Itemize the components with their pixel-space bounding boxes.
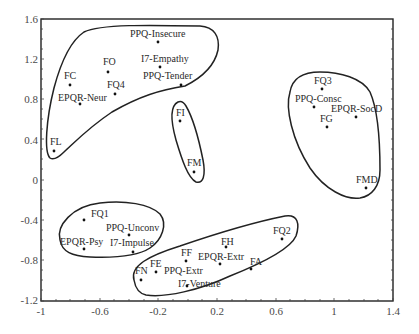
x-tick-label: 1.4: [386, 305, 400, 317]
data-point: [83, 219, 86, 222]
y-tick-label: -1.2: [21, 294, 38, 306]
data-point: [157, 41, 160, 44]
point-label: FE: [150, 258, 162, 269]
y-tick-label: 0.8: [24, 93, 38, 105]
point-label: FL: [50, 136, 62, 147]
data-point: [179, 120, 182, 123]
point-label: I7-Impulse: [110, 237, 154, 248]
point-label: FI: [176, 107, 185, 118]
point-label: FF: [181, 247, 193, 258]
point-label: FQ2: [273, 225, 291, 236]
data-point: [159, 66, 162, 69]
data-point: [250, 268, 253, 271]
y-tick-label: 0.4: [24, 134, 38, 146]
point-label: FC: [64, 70, 77, 81]
point-label: FQ3: [314, 75, 332, 86]
data-points: PPQ-Insecure I7-Empathy PPQ-Tender FO FQ…: [50, 28, 382, 289]
data-point: [53, 150, 56, 153]
data-point: [83, 248, 86, 251]
x-tick-label: 0.6: [269, 305, 283, 317]
data-point: [321, 88, 324, 91]
point-label: FQ4: [107, 79, 125, 90]
data-point: [355, 116, 358, 119]
x-tick-label: -0.6: [91, 305, 109, 317]
x-tick-label: -1: [36, 305, 45, 317]
point-label: FM: [187, 157, 202, 168]
data-point: [180, 84, 183, 87]
y-tick-label: 1.6: [24, 13, 38, 25]
x-tick-label: -0.2: [149, 305, 166, 317]
point-label: I7-Venture: [178, 278, 221, 289]
data-point: [155, 271, 158, 274]
data-point: [128, 234, 131, 237]
point-label: FMD: [356, 174, 378, 185]
y-tick-label: 1.2: [24, 53, 38, 65]
point-label: PPQ-Tender: [143, 70, 193, 81]
point-label: PPQ-Unconv: [106, 222, 159, 233]
y-axis-labels: 1.6 1.2 0.8 0.4 0 -0.4 -0.8 -1.2: [21, 13, 39, 306]
data-point: [140, 279, 143, 282]
data-point: [219, 263, 222, 266]
data-point: [326, 126, 329, 129]
point-label: PPQ-Extr: [164, 265, 204, 276]
y-tick-label: 0: [33, 174, 39, 186]
point-label: FA: [250, 256, 263, 267]
point-label: EPQR-Neur: [58, 92, 108, 103]
data-point: [313, 106, 316, 109]
point-label: EPQR-Extr: [198, 251, 245, 262]
data-point: [114, 93, 117, 96]
x-tick-label: 0.2: [210, 305, 224, 317]
data-point: [79, 103, 82, 106]
point-label: PPQ-Insecure: [130, 28, 186, 39]
scatter-plot: 1.6 1.2 0.8 0.4 0 -0.4 -0.8 -1.2 -1 -0.6…: [0, 0, 419, 334]
point-label: FG: [320, 113, 333, 124]
data-point: [365, 187, 368, 190]
x-tick-label: 1: [331, 305, 337, 317]
point-label: I7-Empathy: [141, 53, 189, 64]
y-tick-label: -0.8: [21, 254, 39, 266]
y-tick-label: -0.4: [21, 214, 39, 226]
data-point: [281, 238, 284, 241]
point-label: EPQR-Psy: [60, 236, 103, 247]
point-label: FH: [221, 236, 234, 247]
point-label: FN: [135, 265, 148, 276]
point-label: EPQR-SocD: [331, 103, 382, 114]
point-label: FQ1: [91, 208, 109, 219]
data-point: [185, 260, 188, 263]
data-point: [132, 251, 135, 254]
x-axis-labels: -1 -0.6 -0.2 0.2 0.6 1 1.4: [36, 305, 400, 317]
point-label: FO: [103, 56, 116, 67]
data-point: [69, 84, 72, 87]
data-point: [107, 71, 110, 74]
data-point: [193, 171, 196, 174]
